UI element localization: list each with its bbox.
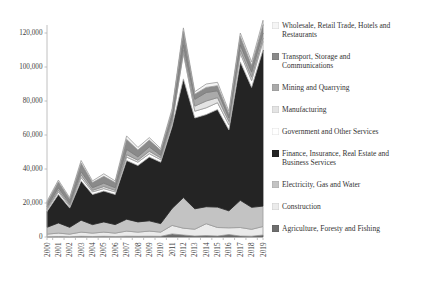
x-axis-tick-label: 2014: [203, 242, 211, 257]
legend-item: Finance, Insurance, Real Estate and Busi…: [272, 149, 418, 167]
legend-swatch-icon: [272, 128, 279, 135]
y-axis-tick-label: 0: [39, 233, 43, 241]
legend-swatch-icon: [272, 106, 279, 113]
x-axis-tick-label: 2018: [248, 242, 256, 257]
chart-legend: Wholesale, Retail Trade, Hotels and Rest…: [272, 21, 418, 233]
legend-swatch-icon: [272, 203, 279, 210]
legend-label: Government and Other Services: [282, 127, 402, 136]
x-axis-tick-label: 2001: [55, 242, 63, 257]
plot-area: 020,00040,00060,00080,000100,000120,0002…: [0, 0, 270, 281]
y-axis-tick-label: 100,000: [19, 63, 43, 71]
legend-label: Mining and Quarrying: [282, 83, 402, 92]
x-axis-tick-label: 2016: [225, 242, 233, 257]
legend-item: Agriculture, Foresty and Fishing: [272, 224, 418, 233]
stacked-area-plot: 020,00040,00060,00080,000100,000120,0002…: [0, 0, 270, 281]
legend-swatch-icon: [272, 84, 279, 91]
legend-item: Manufacturing: [272, 105, 418, 114]
legend-swatch-icon: [272, 150, 279, 157]
x-axis-tick-label: 2017: [237, 242, 245, 257]
x-axis-tick-label: 2015: [214, 242, 222, 257]
legend-item: Mining and Quarrying: [272, 83, 418, 92]
legend-label: Manufacturing: [282, 105, 402, 114]
y-axis-tick-label: 120,000: [19, 29, 43, 37]
y-axis-tick-label: 40,000: [23, 165, 43, 173]
x-axis-tick-label: 2009: [146, 242, 154, 257]
legend-label: Electricity, Gas and Water: [282, 180, 402, 189]
x-axis-tick-label: 2004: [89, 242, 97, 257]
legend-swatch-icon: [272, 181, 279, 188]
y-axis-tick-label: 80,000: [23, 97, 43, 105]
x-axis-tick-label: 2002: [66, 242, 74, 257]
legend-label: Transport, Storage and Communications: [282, 52, 402, 70]
y-axis-tick-label: 60,000: [23, 131, 43, 139]
chart-canvas: 020,00040,00060,00080,000100,000120,0002…: [0, 0, 421, 281]
legend-item: Wholesale, Retail Trade, Hotels and Rest…: [272, 21, 418, 39]
x-axis-tick-label: 2012: [180, 242, 188, 257]
legend-label: Agriculture, Foresty and Fishing: [282, 224, 402, 233]
x-axis-tick-label: 2019: [260, 242, 268, 257]
legend-item: Construction: [272, 202, 418, 211]
legend-swatch-icon: [272, 53, 279, 60]
legend-label: Construction: [282, 202, 402, 211]
x-axis-tick-label: 2007: [123, 242, 131, 257]
legend-item: Transport, Storage and Communications: [272, 52, 418, 70]
legend-label: Finance, Insurance, Real Estate and Busi…: [282, 149, 402, 167]
area-series: [47, 50, 263, 227]
x-axis-tick-label: 2006: [112, 242, 120, 257]
legend-label: Wholesale, Retail Trade, Hotels and Rest…: [282, 21, 402, 39]
x-axis-tick-label: 2010: [157, 242, 165, 257]
x-axis-tick-label: 2011: [169, 242, 177, 257]
x-axis-tick-label: 2003: [78, 242, 86, 257]
x-axis-tick-label: 2008: [135, 242, 143, 257]
y-axis-tick-label: 20,000: [23, 199, 43, 207]
legend-swatch-icon: [272, 22, 279, 29]
legend-item: Government and Other Services: [272, 127, 418, 136]
x-axis-tick-label: 2000: [44, 242, 52, 257]
legend-item: Electricity, Gas and Water: [272, 180, 418, 189]
x-axis-tick-label: 2013: [191, 242, 199, 257]
x-axis-tick-label: 2005: [100, 242, 108, 257]
legend-swatch-icon: [272, 225, 279, 232]
